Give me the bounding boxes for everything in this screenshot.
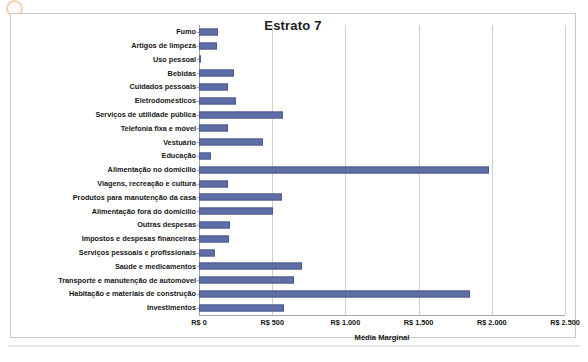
bar[interactable] xyxy=(199,139,263,146)
bar[interactable] xyxy=(199,56,201,63)
bar-track xyxy=(199,191,575,205)
bar-track xyxy=(199,94,575,108)
bar-row: Telefonia fixa e móvel xyxy=(11,122,575,136)
bar-track xyxy=(199,218,575,232)
category-label: Habitação e materiais de construção xyxy=(11,290,199,297)
bar[interactable] xyxy=(199,70,234,77)
bar[interactable] xyxy=(199,249,215,256)
category-label: Saúde e medicamentos xyxy=(11,263,199,270)
bar-track xyxy=(199,80,575,94)
bar[interactable] xyxy=(199,291,470,298)
bar-track xyxy=(199,301,575,315)
bar-row: Transporte e manutenção de automóvel xyxy=(11,273,575,287)
category-label: Alimentação fora do domicílio xyxy=(11,208,199,215)
bar-row: Bebidas xyxy=(11,66,575,80)
bar-row: Cuidados pessoais xyxy=(11,80,575,94)
bar-track xyxy=(199,149,575,163)
bar[interactable] xyxy=(199,208,273,215)
x-tick-label: R$ 2.000 xyxy=(477,318,507,327)
bar-track xyxy=(199,204,575,218)
bar-row: Investimentos xyxy=(11,301,575,315)
bar-track xyxy=(199,287,575,301)
bar[interactable] xyxy=(199,111,283,118)
bar-row: Viagens, recreação e cultura xyxy=(11,177,575,191)
bar-rows: FumoArtigos de limpezaUso pessoalBebidas… xyxy=(11,25,575,315)
bar-row: Impostos e despesas financeiras xyxy=(11,232,575,246)
category-label: Cuidados pessoais xyxy=(11,83,199,90)
category-label: Artigos de limpeza xyxy=(11,42,199,49)
category-label: Investimentos xyxy=(11,304,199,311)
bar-track xyxy=(199,177,575,191)
bar-track xyxy=(199,66,575,80)
x-tick-label: R$ 500 xyxy=(260,318,284,327)
bar-row: Saúde e medicamentos xyxy=(11,260,575,274)
x-tick-label: R$ 1.500 xyxy=(404,318,434,327)
x-axis-title: Média Marginal xyxy=(199,333,565,342)
chart-container: Estrato 7 FumoArtigos de limpezaUso pess… xyxy=(10,13,576,338)
bar[interactable] xyxy=(199,304,284,311)
bar[interactable] xyxy=(199,263,302,270)
category-label: Serviços de utilidade pública xyxy=(11,111,199,118)
x-tick-label: R$ 0 xyxy=(191,318,206,327)
bar-row: Vestuário xyxy=(11,135,575,149)
bar[interactable] xyxy=(199,28,218,35)
bar[interactable] xyxy=(199,97,236,104)
bar[interactable] xyxy=(199,277,294,284)
bar-track xyxy=(199,246,575,260)
bar[interactable] xyxy=(199,194,282,201)
x-axis-line xyxy=(199,315,565,316)
category-label: Eletrodomésticos xyxy=(11,97,199,104)
category-label: Transporte e manutenção de automóvel xyxy=(11,277,199,284)
bar[interactable] xyxy=(199,42,217,49)
bar-track xyxy=(199,108,575,122)
bar-row: Eletrodomésticos xyxy=(11,94,575,108)
bar-row: Serviços de utilidade pública xyxy=(11,108,575,122)
bar-row: Artigos de limpeza xyxy=(11,39,575,53)
x-axis-tick-labels: R$ 0R$ 500R$ 1.000R$ 1.500R$ 2.000R$ 2.5… xyxy=(199,318,565,332)
category-label: Bebidas xyxy=(11,70,199,77)
bar-row: Serviços pessoais e profissionais xyxy=(11,246,575,260)
bar-row: Outras despesas xyxy=(11,218,575,232)
category-label: Outras despesas xyxy=(11,221,199,228)
category-label: Serviços pessoais e profissionais xyxy=(11,249,199,256)
bar-row: Alimentação fora do domicílio xyxy=(11,204,575,218)
bar-row: Habitação e materiais de construção xyxy=(11,287,575,301)
x-tick-label: R$ 1.000 xyxy=(331,318,361,327)
bar-track xyxy=(199,25,575,39)
bar[interactable] xyxy=(199,222,230,229)
plot-area: FumoArtigos de limpezaUso pessoalBebidas… xyxy=(11,25,575,337)
bar-track xyxy=(199,135,575,149)
bar-track xyxy=(199,163,575,177)
category-label: Produtos para manutenção da casa xyxy=(11,194,199,201)
category-label: Vestuário xyxy=(11,139,199,146)
category-label: Fumo xyxy=(11,28,199,35)
bar-row: Educação xyxy=(11,149,575,163)
bar[interactable] xyxy=(199,180,228,187)
bar-track xyxy=(199,122,575,136)
category-label: Impostos e despesas financeiras xyxy=(11,235,199,242)
category-label: Uso pessoal xyxy=(11,56,199,63)
bar-track xyxy=(199,260,575,274)
bar-row: Uso pessoal xyxy=(11,53,575,67)
x-tick-label: R$ 2.500 xyxy=(550,318,580,327)
category-label: Viagens, recreação e cultura xyxy=(11,180,199,187)
bar-row: Alimentação no domicílio xyxy=(11,163,575,177)
bar[interactable] xyxy=(199,84,228,91)
bar-row: Fumo xyxy=(11,25,575,39)
bar[interactable] xyxy=(199,153,211,160)
bar[interactable] xyxy=(199,125,228,132)
category-label: Telefonia fixa e móvel xyxy=(11,125,199,132)
bar[interactable] xyxy=(199,235,229,242)
bar-track xyxy=(199,273,575,287)
bar-row: Produtos para manutenção da casa xyxy=(11,191,575,205)
page-edge-shadow xyxy=(8,345,580,347)
bar-track xyxy=(199,53,575,67)
bar-track xyxy=(199,39,575,53)
bar-track xyxy=(199,232,575,246)
category-label: Educação xyxy=(11,152,199,159)
category-label: Alimentação no domicílio xyxy=(11,166,199,173)
bar[interactable] xyxy=(199,166,489,173)
